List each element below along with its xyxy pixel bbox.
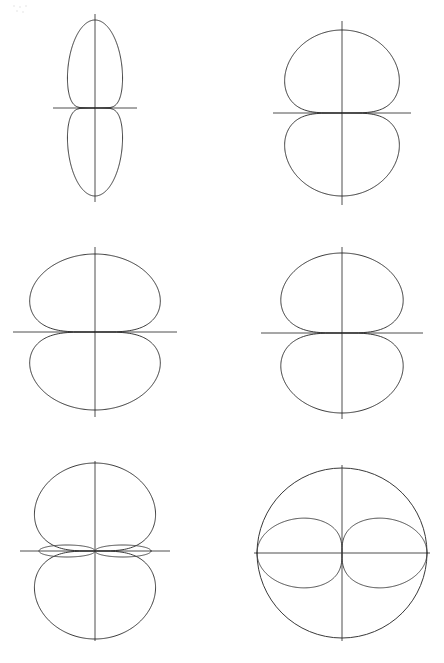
panel-6-canvas: [222, 442, 444, 663]
polar-plot-panel-2: [222, 0, 444, 221]
polar-plot-panel-4: [222, 221, 444, 442]
panel-1-canvas: [0, 0, 222, 221]
polar-plot-panel-5: [0, 442, 222, 663]
panel-4-canvas: [222, 221, 444, 442]
panel-2-canvas: [222, 0, 444, 221]
polar-plot-panel-3: [0, 221, 222, 442]
polar-plot-panel-1: [0, 0, 222, 221]
polar-plot-grid: [0, 0, 444, 663]
panel-3-canvas: [0, 221, 222, 442]
figure-sheet: [0, 0, 444, 663]
panel-5-canvas: [0, 442, 222, 663]
polar-plot-panel-6: [222, 442, 444, 663]
